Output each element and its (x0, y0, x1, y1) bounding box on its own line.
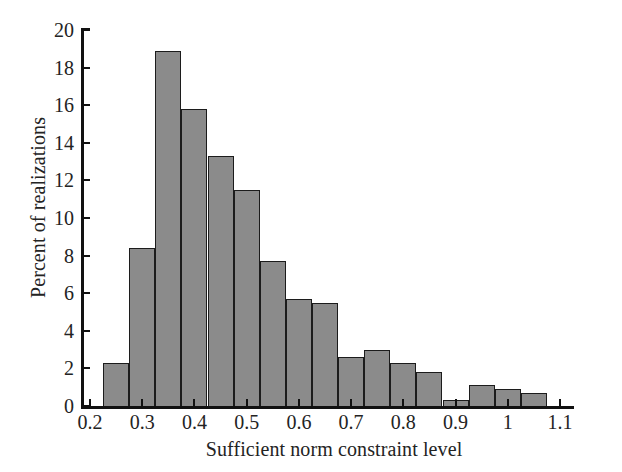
y-tick-label: 10 (54, 208, 74, 228)
y-tick-label: 20 (54, 20, 74, 40)
histogram-bar (155, 51, 181, 406)
y-tick-label: 0 (64, 396, 74, 416)
histogram-bar (469, 385, 495, 406)
histogram-bar (260, 261, 286, 406)
histogram-bar (521, 393, 547, 406)
y-tick: 4 (81, 330, 90, 332)
y-tick: 18 (81, 67, 90, 69)
y-tick-label: 14 (54, 132, 74, 152)
y-tick: 12 (81, 179, 90, 181)
x-tick-label: 0.2 (78, 412, 103, 432)
y-tick-label: 12 (54, 170, 74, 190)
y-tick: 2 (81, 367, 90, 369)
y-tick-label: 6 (64, 283, 74, 303)
x-tick (89, 399, 91, 407)
y-tick-label: 16 (54, 95, 74, 115)
x-tick (402, 399, 404, 407)
y-tick: 8 (81, 255, 90, 257)
x-tick-label: 0.4 (182, 412, 207, 432)
x-tick (455, 399, 457, 407)
x-tick-label: 0.8 (391, 412, 416, 432)
x-axis-title: Sufficient norm constraint level (0, 438, 622, 461)
x-tick-label: 0.6 (286, 412, 311, 432)
x-tick-label: 1 (503, 412, 513, 432)
histogram-bar (312, 303, 338, 406)
y-tick: 20 (81, 29, 90, 31)
x-tick (350, 399, 352, 407)
x-tick-label: 0.7 (339, 412, 364, 432)
x-axis-title-text: Sufficient norm constraint level (160, 438, 463, 461)
histogram-bar (208, 156, 234, 406)
x-tick (246, 399, 248, 407)
histogram-bar (181, 109, 207, 406)
histogram-bar (364, 350, 390, 406)
y-tick-label: 18 (54, 57, 74, 77)
x-tick-label: 1.1 (548, 412, 573, 432)
y-axis-title: Percent of realizations (27, 78, 50, 338)
y-tick-label: 8 (64, 245, 74, 265)
x-axis-line (81, 406, 574, 409)
histogram-bar (416, 372, 442, 406)
x-tick (559, 399, 561, 407)
y-tick: 6 (81, 292, 90, 294)
x-tick (141, 399, 143, 407)
y-tick: 14 (81, 142, 90, 144)
x-tick-label: 0.3 (130, 412, 155, 432)
y-tick: 10 (81, 217, 90, 219)
y-tick-label: 4 (64, 320, 74, 340)
histogram-bar (234, 190, 260, 406)
y-tick: 16 (81, 104, 90, 106)
x-tick-label: 0.9 (443, 412, 468, 432)
x-tick (298, 399, 300, 407)
plot-area: 02468101214161820 0.20.30.40.50.60.70.80… (90, 30, 560, 406)
histogram-bar (129, 248, 155, 406)
histogram-figure: Percent of realizations 0246810121416182… (0, 0, 622, 472)
histogram-bar (286, 299, 312, 406)
x-tick (193, 399, 195, 407)
histogram-bar (103, 363, 129, 406)
x-tick-label: 0.5 (234, 412, 259, 432)
x-tick (507, 399, 509, 407)
y-tick-label: 2 (64, 358, 74, 378)
